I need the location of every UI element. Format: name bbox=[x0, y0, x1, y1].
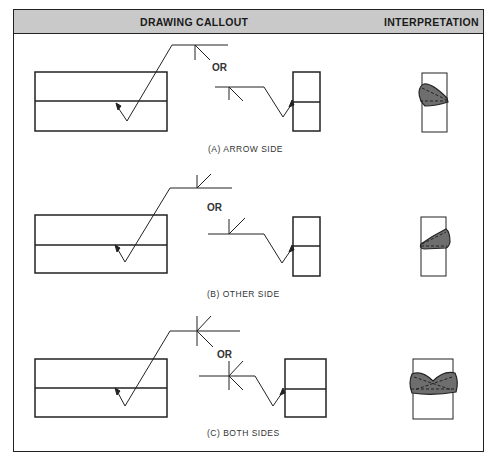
fillet-symbol-icon bbox=[197, 174, 211, 188]
row-b-callout bbox=[35, 174, 320, 276]
leader-line-b-alt bbox=[208, 234, 293, 263]
arrowhead-icon bbox=[116, 103, 121, 110]
or-label-c: OR bbox=[217, 349, 232, 360]
fillet-symbol-icon bbox=[229, 218, 245, 234]
caption-a: (A) ARROW SIDE bbox=[208, 144, 283, 154]
row-c-callout bbox=[35, 316, 326, 417]
weld-symbol-diagram bbox=[0, 0, 488, 463]
row-c-interpretation bbox=[410, 359, 457, 419]
leader-line-c bbox=[117, 331, 240, 406]
row-b-interpretation bbox=[420, 217, 450, 276]
or-label-b: OR bbox=[207, 202, 222, 213]
weld-bead-icon bbox=[419, 84, 448, 106]
row-a-callout bbox=[35, 45, 320, 131]
arrowhead-icon bbox=[115, 388, 120, 395]
leader-line-c-alt bbox=[199, 376, 284, 406]
caption-b: (B) OTHER SIDE bbox=[207, 289, 280, 299]
caption-c: (C) BOTH SIDES bbox=[207, 428, 280, 438]
row-a-interpretation bbox=[419, 73, 448, 132]
tee-joint-rect-c bbox=[285, 359, 326, 417]
plate-rect-b bbox=[35, 215, 167, 273]
leader-line-b bbox=[117, 188, 232, 262]
or-label-a: OR bbox=[212, 62, 227, 73]
leader-line-a-alt bbox=[215, 87, 293, 117]
leader-line-a bbox=[117, 45, 228, 121]
